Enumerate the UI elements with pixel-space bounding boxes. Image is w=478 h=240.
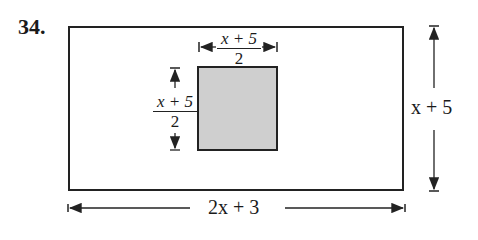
inner-width-label: x + 5 2 — [217, 30, 261, 67]
denominator: 2 — [217, 49, 261, 67]
denominator: 2 — [153, 112, 197, 130]
inner-height-label: x + 5 2 — [153, 93, 197, 130]
numerator: x + 5 — [157, 92, 193, 111]
outer-width-label: 2x + 3 — [205, 196, 262, 219]
numerator: x + 5 — [221, 29, 257, 48]
outer-height-label: x + 5 — [408, 96, 455, 119]
